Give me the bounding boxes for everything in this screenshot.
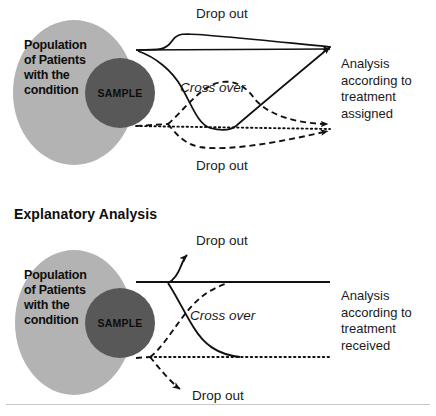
outcome-text-assigned: Analysis according to treatment assigned: [341, 56, 412, 122]
dropout-top-label: Drop out: [196, 6, 248, 22]
outcome-text-received: Analysis according to treatment received: [341, 288, 412, 354]
panel-explanatory-analysis: Explanatory Analysis SAMPLE Population o…: [0, 200, 436, 416]
dropout-bottom-label: Drop out: [192, 388, 244, 404]
dropout-top-solid-curve: [168, 255, 187, 283]
assigned-treatment-solid-baseline: [136, 49, 330, 50]
crossover-label: Cross over: [180, 80, 245, 96]
dropout-bottom-label: Drop out: [196, 158, 248, 174]
panel-pragmatic-analysis: SAMPLE Population of Patients with the c…: [0, 0, 436, 200]
control-arm-dashed-entry: [136, 357, 150, 358]
bottom-divider-rule: [6, 404, 430, 405]
dropout-bottom-dashed-curve: [150, 357, 180, 389]
randomised-trial-flow-figure: SAMPLE Population of Patients with the c…: [0, 0, 436, 416]
dropout-top-solid-curve: [136, 34, 331, 50]
crossover-label: Cross over: [190, 308, 255, 324]
dropout-top-label: Drop out: [196, 233, 248, 249]
